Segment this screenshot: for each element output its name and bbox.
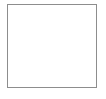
range-map-figure: Western United States distribution map O… bbox=[0, 0, 106, 99]
map-svg bbox=[0, 0, 106, 99]
map-border-overlay bbox=[8, 5, 97, 88]
map-frame bbox=[0, 0, 106, 99]
